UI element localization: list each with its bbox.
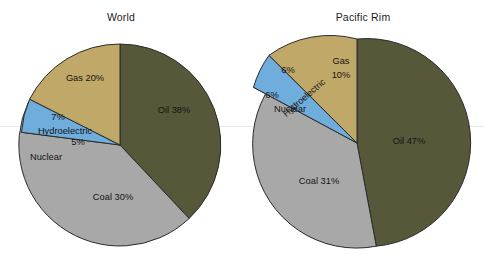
slice-value-gas: 10% <box>332 70 351 80</box>
pie-svg-pacific-rim: Oil 47% Coal 31% 6% Nuclear 6% Hydroelec… <box>242 0 484 258</box>
pie-chart-pacific-rim: Pacific Rim Oil 47% Coal 31% 6% Nuclear … <box>242 0 484 258</box>
slice-label-coal: Coal 30% <box>93 192 133 202</box>
slice-value-hydroelectric: 6% <box>281 65 294 75</box>
slice-label-gas: Gas 20% <box>66 73 104 83</box>
pie-svg-world: Oil 38% Coal 30% 5% Nuclear 7% Hydroelec… <box>0 0 242 258</box>
slice-value-nuclear: 6% <box>265 90 278 100</box>
slice-label-gas: Gas <box>332 56 349 66</box>
slice-label-coal: Coal 31% <box>299 176 339 186</box>
slice-label-hydroelectric: Hydroelectric <box>38 126 93 136</box>
slice-value-nuclear: 5% <box>71 137 84 147</box>
slice-value-hydroelectric: 7% <box>51 112 64 122</box>
pie-chart-world: World Oil 38% Coal 30% 5% Nuclear 7% Hyd… <box>0 0 242 258</box>
slice-label-nuclear: Nuclear <box>30 152 62 162</box>
slice-label-oil: Oil 38% <box>158 105 191 115</box>
slice-label-oil: Oil 47% <box>393 136 426 146</box>
